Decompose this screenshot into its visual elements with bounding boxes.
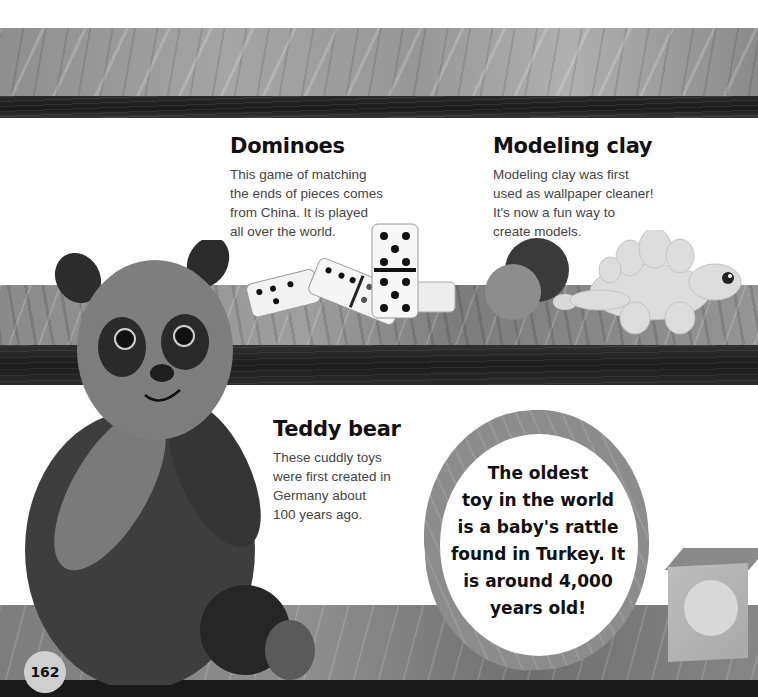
fact-line: is a baby's rattle (438, 514, 638, 541)
text-line: It's now a fun way to (493, 203, 693, 222)
fact-line: The oldest (438, 460, 638, 487)
teddy-bear-description: These cuddly toys were first created in … (273, 448, 413, 524)
text-line: This game of matching (230, 165, 410, 184)
toy-block-circle (684, 580, 738, 636)
top-shelf (0, 28, 758, 98)
modeling-clay-illustration (470, 230, 758, 335)
teddy-bear-heading: Teddy bear (273, 417, 413, 441)
fact-line: toy in the world (438, 487, 638, 514)
fact-line: years old! (438, 595, 638, 622)
text-line: 100 years ago. (273, 505, 413, 524)
text-line: the ends of pieces comes (230, 184, 410, 203)
text-line: These cuddly toys (273, 448, 413, 467)
fact-line: found in Turkey. It (438, 541, 638, 568)
text-line: were first created in (273, 467, 413, 486)
text-line: Germany about (273, 486, 413, 505)
page-number: 162 (24, 651, 66, 693)
modeling-clay-heading: Modeling clay (493, 134, 693, 158)
fact-bubble-text: The oldest toy in the world is a baby's … (438, 460, 638, 622)
teddy-bear-section: Teddy bear These cuddly toys were first … (273, 417, 413, 524)
text-line: used as wallpaper cleaner! (493, 184, 693, 203)
top-shelf-edge (0, 96, 758, 118)
text-line: Modeling clay was first (493, 165, 693, 184)
dominoes-heading: Dominoes (230, 134, 410, 158)
text-line: from China. It is played (230, 203, 410, 222)
modeling-clay-section: Modeling clay Modeling clay was first us… (493, 134, 693, 241)
fact-line: is around 4,000 (438, 568, 638, 595)
